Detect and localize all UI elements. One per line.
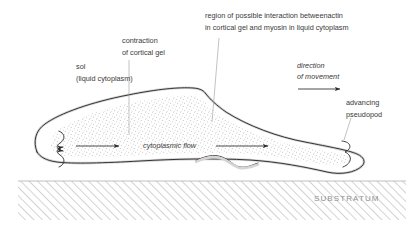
- leader-region: [212, 38, 219, 122]
- pseudopod-label-line1: advancing: [346, 98, 379, 107]
- cytoplasmic-flow-label: cytoplasmic flow: [143, 141, 197, 150]
- liquid-cytoplasm-stipple: [51, 96, 352, 165]
- contraction-label-line1: contraction: [122, 36, 158, 45]
- pseudopod-label-line2: pseudopod: [346, 110, 382, 119]
- label-pseudopod: advancing pseudopod: [346, 98, 382, 119]
- label-contraction: contraction of cortical gel: [122, 36, 165, 57]
- direction-label-line1: direction: [297, 61, 325, 70]
- amoeboid-cell: [35, 88, 364, 174]
- contraction-label-line2: of cortical gel: [122, 48, 165, 57]
- direction-label-line2: of movement: [297, 72, 340, 81]
- label-region: region of possible interaction betweenac…: [205, 11, 349, 32]
- diagram-canvas: SUBSTRATUM cytoplasmic flow: [0, 0, 406, 231]
- sol-label-line1: sol: [76, 62, 86, 71]
- sol-label-line2: (liquid cytoplasm): [76, 74, 133, 83]
- region-label-line1: region of possible interaction betweenac…: [205, 11, 343, 20]
- leader-pseudopod: [344, 118, 351, 140]
- label-sol: sol (liquid cytoplasm): [76, 62, 133, 83]
- substratum-label: SUBSTRATUM: [314, 194, 380, 203]
- cell-motility-diagram: SUBSTRATUM cytoplasmic flow: [0, 0, 406, 231]
- region-label-line2: in cortical gel and myosin in liquid cyt…: [205, 23, 349, 32]
- label-direction: direction of movement: [297, 61, 340, 89]
